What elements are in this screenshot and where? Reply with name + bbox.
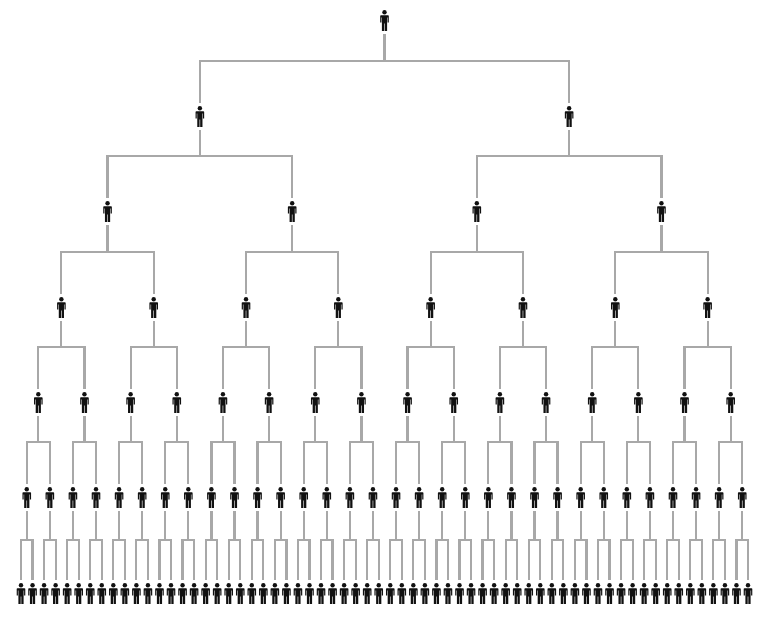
person-node-icon: [155, 583, 164, 604]
person-node-icon: [346, 487, 355, 508]
person-node-icon: [51, 583, 60, 604]
connector-line: [598, 511, 610, 580]
person-node-icon: [409, 583, 418, 604]
connector-line: [581, 416, 604, 484]
connector-line: [27, 416, 50, 484]
person-node-icon: [121, 583, 130, 604]
person-node-icon: [651, 583, 660, 604]
person-node-icon: [507, 487, 516, 508]
person-node-icon: [28, 583, 37, 604]
person-node-icon: [455, 583, 464, 604]
person-node-icon: [74, 583, 83, 604]
connector-line: [477, 130, 662, 198]
person-node-icon: [536, 583, 545, 604]
connector-line: [413, 511, 425, 580]
person-node-icon: [415, 487, 424, 508]
person-node-icon: [599, 487, 608, 508]
person-node-icon: [46, 487, 55, 508]
person-node-icon: [57, 297, 66, 318]
connector-line: [431, 225, 523, 294]
person-node-icon: [663, 583, 672, 604]
tree-canvas: [0, 0, 769, 622]
person-node-icon: [449, 392, 458, 413]
person-node-icon: [709, 583, 718, 604]
connector-line: [246, 225, 338, 294]
person-node-icon: [594, 583, 603, 604]
person-node-icon: [467, 583, 476, 604]
person-node-icon: [178, 583, 187, 604]
person-node-icon: [126, 392, 135, 413]
person-node-icon: [288, 201, 297, 222]
person-node-icon: [548, 583, 557, 604]
connector-line: [488, 416, 511, 484]
person-node-icon: [605, 583, 614, 604]
connector-line: [67, 511, 79, 580]
connector-line: [211, 416, 234, 484]
connector-line: [713, 511, 725, 580]
person-node-icon: [721, 583, 730, 604]
person-node-icon: [351, 583, 360, 604]
connector-line: [275, 511, 287, 580]
person-node-icon: [196, 106, 205, 127]
person-node-icon: [92, 487, 101, 508]
person-node-icon: [247, 583, 256, 604]
connector-line: [673, 416, 696, 484]
person-node-icon: [282, 583, 291, 604]
person-node-icon: [611, 297, 620, 318]
person-node-icon: [478, 583, 487, 604]
person-node-icon: [224, 583, 233, 604]
person-node-icon: [363, 583, 372, 604]
person-node-icon: [161, 487, 170, 508]
connector-line: [315, 321, 361, 389]
person-node-icon: [617, 583, 626, 604]
connector-line: [667, 511, 679, 580]
person-node-icon: [484, 487, 493, 508]
person-node-icon: [369, 487, 378, 508]
person-node-icon: [22, 487, 31, 508]
person-node-icon: [167, 583, 176, 604]
person-node-icon: [444, 583, 453, 604]
connector-line: [159, 511, 171, 580]
connector-line: [552, 511, 564, 580]
person-node-icon: [17, 583, 26, 604]
person-node-icon: [213, 583, 222, 604]
connector-line: [436, 511, 448, 580]
connector-line: [442, 416, 465, 484]
connector-line: [321, 511, 333, 580]
connector-line: [627, 416, 650, 484]
person-node-icon: [686, 583, 695, 604]
person-node-icon: [328, 583, 337, 604]
person-node-icon: [571, 583, 580, 604]
person-node-icon: [103, 201, 112, 222]
person-node-icon: [97, 583, 106, 604]
person-node-icon: [403, 392, 412, 413]
person-node-icon: [530, 487, 539, 508]
connector-line: [108, 130, 293, 198]
person-node-icon: [623, 487, 632, 508]
person-node-icon: [657, 201, 666, 222]
person-node-icon: [201, 583, 210, 604]
connector-line: [719, 416, 742, 484]
person-node-icon: [132, 583, 141, 604]
person-node-icon: [669, 487, 678, 508]
person-node-icon: [398, 583, 407, 604]
person-node-icon: [276, 487, 285, 508]
connector-line: [350, 416, 373, 484]
connector-line: [200, 34, 569, 103]
person-node-icon: [230, 487, 239, 508]
person-node-icon: [386, 583, 395, 604]
person-node-icon: [242, 297, 251, 318]
person-node-icon: [732, 583, 741, 604]
connector-line: [736, 511, 748, 580]
person-node-icon: [726, 392, 735, 413]
connector-line: [690, 511, 702, 580]
person-node-icon: [115, 487, 124, 508]
person-node-icon: [172, 392, 181, 413]
person-node-icon: [253, 487, 262, 508]
person-node-icon: [565, 106, 574, 127]
connector-line: [38, 321, 84, 389]
connector-line: [644, 511, 656, 580]
connector-line: [183, 511, 195, 580]
connector-line: [396, 416, 419, 484]
person-node-icon: [426, 297, 435, 318]
